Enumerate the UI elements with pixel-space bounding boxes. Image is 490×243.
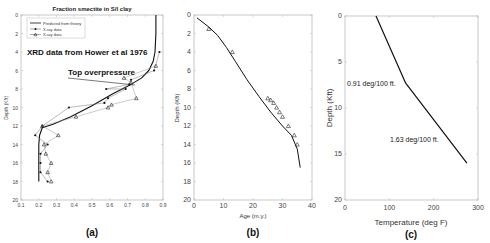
xray-dot-marker (105, 88, 107, 90)
annotation-upper-gradient: 0.91 deg/100 ft. (347, 80, 396, 88)
axes-frame (21, 15, 163, 200)
xray-dot-marker (103, 102, 105, 104)
predicted-line (197, 18, 300, 168)
x-tick-label: 0.6 (106, 202, 113, 208)
y-tick-label: 0 (338, 12, 342, 19)
y-tick-label: 5 (338, 58, 342, 65)
x-tick-label: 0.2 (35, 202, 42, 208)
legend-label-dots: X-ray data (43, 27, 62, 32)
x-tick-label: 40 (308, 202, 316, 209)
legend-label-predicted: Predicted from theory (43, 21, 81, 26)
y-axis-label: Depth (Kft) (3, 96, 9, 121)
x-tick-label: 100 (383, 204, 395, 211)
y-tick-label: 10 (334, 104, 342, 111)
y-tick-label: 20 (183, 196, 191, 203)
x-tick-label: 10 (220, 202, 228, 209)
x-tick-label: 300 (472, 204, 484, 211)
legend: Predicted from theoryX-ray dataX-ray dat… (27, 18, 85, 38)
y-tick-label: 18 (183, 178, 191, 185)
data-triangle-marker (286, 124, 290, 128)
xray-triangle-marker (154, 64, 158, 67)
y-tick-label: 18 (12, 179, 18, 185)
x-axis-label: Age (m.y.) (239, 213, 266, 219)
y-tick-label: 2 (187, 30, 191, 37)
xray-dot-marker (47, 180, 49, 182)
x-tick-label: 0.4 (71, 202, 78, 208)
y-tick-label: 4 (15, 49, 18, 55)
data-triangle-marker (230, 50, 234, 54)
y-tick-label: 12 (12, 123, 18, 129)
y-tick-label: 12 (183, 122, 191, 129)
data-triangle-marker (275, 106, 279, 110)
x-tick-label: 0.9 (160, 202, 167, 208)
y-tick-label: 16 (183, 159, 191, 166)
y-tick-label: 0 (15, 12, 18, 18)
xray-dot-marker (125, 88, 127, 90)
y-tick-label: 14 (183, 141, 191, 148)
xray-dot-marker (47, 143, 49, 145)
data-triangle-marker (295, 143, 299, 147)
x-axis-label: Temperature (deg F) (375, 218, 448, 227)
y-tick-label: 14 (12, 142, 18, 148)
xray-dot-marker (39, 162, 41, 164)
y-tick-label: 4 (187, 48, 191, 55)
x-tick-label: 0 (343, 204, 347, 211)
x-tick-label: 200 (428, 204, 440, 211)
x-tick-label: 0.8 (142, 202, 149, 208)
y-axis-label: Depth (Kft) (174, 93, 180, 122)
annotation-source: XRD data from Hower et al 1976 (27, 48, 148, 57)
xray-dot-marker (34, 134, 36, 136)
xray-dot-marker (153, 69, 155, 71)
legend-dot-icon (35, 28, 37, 30)
xray-dot-marker (158, 51, 160, 53)
y-tick-label: 15 (334, 150, 342, 157)
x-tick-label: 0.3 (53, 202, 60, 208)
y-tick-label: 16 (12, 160, 18, 166)
y-tick-label: 20 (12, 197, 18, 203)
y-tick-label: 10 (12, 105, 18, 111)
y-axis-label: Depth (Kft) (325, 88, 334, 127)
predicted-line (39, 15, 156, 182)
data-triangle-marker (278, 110, 282, 114)
y-tick-label: 8 (15, 86, 18, 92)
data-triangle-marker (292, 133, 296, 137)
annotation-lower-gradient: 1.63 deg/100 ft. (390, 136, 439, 144)
y-tick-label: 6 (187, 67, 191, 74)
xray-dot-marker (107, 97, 109, 99)
x-tick-label: 30 (279, 202, 287, 209)
y-tick-label: 2 (15, 31, 18, 37)
chart-title: Fraction smectite in S/I clay (52, 6, 132, 12)
y-tick-label: 20 (334, 196, 342, 203)
axes-frame (194, 15, 312, 200)
y-tick-label: 6 (15, 68, 18, 74)
data-triangle-marker (266, 96, 270, 100)
data-triangle-marker (281, 115, 285, 119)
x-tick-label: 0.7 (124, 202, 131, 208)
xray-dot-marker (39, 171, 41, 173)
x-tick-label: 0.1 (18, 202, 25, 208)
x-tick-label: 20 (249, 202, 257, 209)
panel-label-c: (c) (405, 229, 417, 240)
figure-canvas: 0.10.20.30.40.50.60.70.80.90246810121416… (0, 0, 490, 243)
annotation-top-overpressure: Top overpressure (68, 68, 136, 77)
panel-b-chart: 01020304002468101214161820Age (m.y.)Dept… (174, 11, 316, 238)
panel-c-chart: 010020030005101520Temperature (deg F)Dep… (325, 12, 484, 240)
legend-label-tri: X-ray data (43, 32, 62, 37)
xray-dot-marker (39, 153, 41, 155)
y-tick-label: 0 (187, 11, 191, 18)
panel-label-a: (a) (86, 227, 98, 238)
y-tick-label: 10 (183, 104, 191, 111)
y-tick-label: 8 (187, 85, 191, 92)
axes-frame (345, 16, 478, 200)
x-tick-label: 0.5 (89, 202, 96, 208)
xray-tri-line (42, 66, 156, 182)
x-tick-label: 0 (192, 202, 196, 209)
panel-label-b: (b) (247, 227, 260, 238)
xray-dot-marker (68, 106, 70, 108)
panel-a-chart: 0.10.20.30.40.50.60.70.80.90246810121416… (3, 6, 167, 238)
